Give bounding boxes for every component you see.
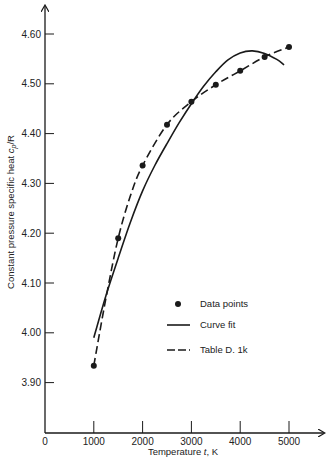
x-tick-label: 4000 (229, 436, 252, 447)
data-point (213, 82, 219, 88)
y-tick-label: 4.10 (22, 278, 42, 289)
x-tick-label: 1000 (83, 436, 106, 447)
data-point (237, 68, 243, 74)
data-point (115, 235, 121, 241)
data-point (140, 162, 146, 168)
y-tick-label: 3.90 (22, 377, 42, 388)
legend-label-curve-fit: Curve fit (200, 319, 236, 330)
data-point (286, 44, 292, 50)
x-tick-label: 0 (42, 436, 48, 447)
curve-fit-line (94, 51, 284, 338)
table-d1k-line (94, 47, 289, 366)
legend-marker-icon (175, 301, 181, 307)
data-point (91, 363, 97, 369)
legend: Data points Curve fit Table D. 1k (167, 298, 248, 355)
legend-label-data-points: Data points (200, 298, 248, 309)
y-ticks: 3.904.004.104.204.304.404.504.60 (22, 29, 54, 389)
y-tick-label: 4.50 (22, 78, 42, 89)
x-tick-label: 5000 (278, 436, 301, 447)
y-tick-label: 4.60 (22, 29, 42, 40)
x-axis-title: Temperature t, K (148, 446, 219, 457)
y-tick-label: 4.20 (22, 228, 42, 239)
data-point (188, 99, 194, 105)
y-tick-label: 4.40 (22, 128, 42, 139)
chart: 3.904.004.104.204.304.404.504.60 0100020… (0, 0, 332, 464)
data-point (262, 54, 268, 60)
legend-label-table-d1k: Table D. 1k (200, 344, 248, 355)
x-ticks: 010002000300040005000 (42, 421, 300, 447)
y-tick-label: 4.00 (22, 327, 42, 338)
y-axis-title: Constant pressure specific heat cp/R (5, 135, 18, 289)
plot-area (91, 44, 292, 369)
data-point (164, 122, 170, 128)
y-tick-label: 4.30 (22, 178, 42, 189)
